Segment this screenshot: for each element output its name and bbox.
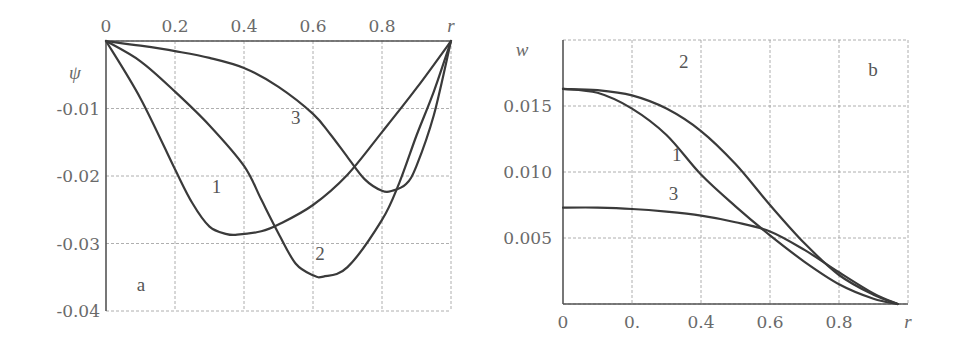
curve-label: 2 [679, 51, 689, 72]
x-axis-label: r [904, 311, 912, 332]
x-tick-label: 0 [558, 312, 569, 332]
curve-1 [563, 89, 898, 304]
panel-a-labels: 00.20.40.60.8r-0.01-0.02-0.03-0.04ψa123 [56, 15, 455, 321]
x-tick-label: 0.4 [687, 312, 714, 332]
panel-b-grid [563, 40, 908, 304]
y-tick-label: -0.04 [56, 301, 100, 321]
x-tick-label: 0.4 [230, 16, 257, 36]
y-axis-label: ψ [69, 62, 82, 83]
y-tick-label: 0.010 [503, 162, 552, 182]
y-tick-label: -0.03 [56, 234, 100, 254]
panel-b-w-chart: 00.0.40.60.8r0.0150.0100.005wb213 [503, 39, 912, 332]
y-tick-label: 0.015 [503, 96, 552, 116]
x-tick-label: 0.6 [299, 16, 326, 36]
y-tick-label: 0.005 [503, 228, 552, 248]
y-tick-label: -0.02 [56, 166, 100, 186]
x-tick-label: 0.8 [368, 16, 395, 36]
curve-3 [106, 41, 451, 192]
panel-b-curves [563, 89, 898, 304]
x-tick-label: 0. [624, 312, 640, 332]
panel-label: a [137, 274, 146, 295]
y-tick-label: -0.01 [56, 99, 100, 119]
panel-label: b [868, 59, 878, 80]
y-axis-label: w [516, 39, 529, 60]
curve-2 [106, 41, 451, 277]
panel-a-grid [106, 41, 451, 311]
curve-label: 2 [315, 243, 325, 264]
curve-label: 1 [672, 144, 682, 165]
curve-label: 3 [291, 107, 301, 128]
panel-b-labels: 00.0.40.60.8r0.0150.0100.005wb213 [503, 39, 912, 332]
curve-label: 1 [212, 176, 222, 197]
x-tick-label: 0 [101, 16, 112, 36]
panel-a-curves [106, 41, 451, 277]
panel-a-psi-chart: 00.20.40.60.8r-0.01-0.02-0.03-0.04ψa123 [56, 15, 455, 321]
curve-2 [563, 89, 898, 304]
curve-1 [106, 41, 451, 235]
figure: 00.20.40.60.8r-0.01-0.02-0.03-0.04ψa123 … [0, 0, 958, 344]
x-tick-label: 0.6 [756, 312, 783, 332]
x-axis-label: r [447, 15, 455, 36]
x-tick-label: 0.8 [825, 312, 852, 332]
x-tick-label: 0.2 [161, 16, 188, 36]
curve-label: 3 [669, 183, 679, 204]
